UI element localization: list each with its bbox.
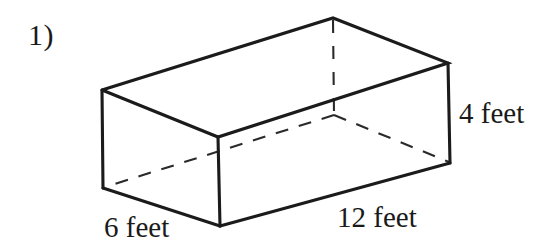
width-dimension-label: 6 feet	[104, 213, 169, 242]
item-number-label: 1)	[28, 20, 54, 50]
height-dimension-label: 4 feet	[459, 99, 524, 128]
right-vertical-edge	[448, 63, 450, 163]
front-vertical-edge	[218, 137, 220, 226]
left-vertical-edge	[102, 90, 103, 188]
rectangular-prism-figure: 1) 4 feet 12 feet 6 feet	[0, 0, 555, 249]
length-dimension-label: 12 feet	[337, 203, 417, 232]
